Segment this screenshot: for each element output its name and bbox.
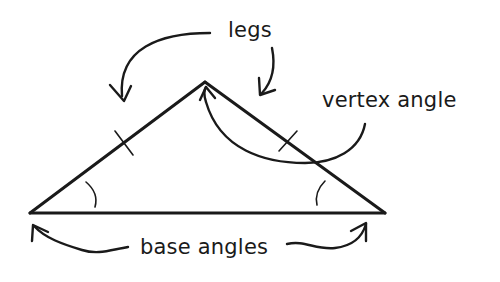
legs-arrow-right bbox=[259, 48, 275, 95]
vertex-angle-label: vertex angle bbox=[322, 88, 457, 112]
legs-label: legs bbox=[228, 18, 272, 42]
left-leg-tick-mark bbox=[115, 131, 133, 155]
right-base-angle-arc bbox=[316, 181, 325, 205]
left-base-angle-arc bbox=[86, 182, 96, 207]
left-leg bbox=[30, 82, 205, 213]
base-angles-label: base angles bbox=[140, 235, 268, 259]
isosceles-triangle-diagram: legs vertex angle base angles bbox=[0, 0, 500, 282]
base-angles-arrow-right bbox=[287, 223, 366, 248]
base-angles-arrow-left bbox=[32, 225, 128, 252]
